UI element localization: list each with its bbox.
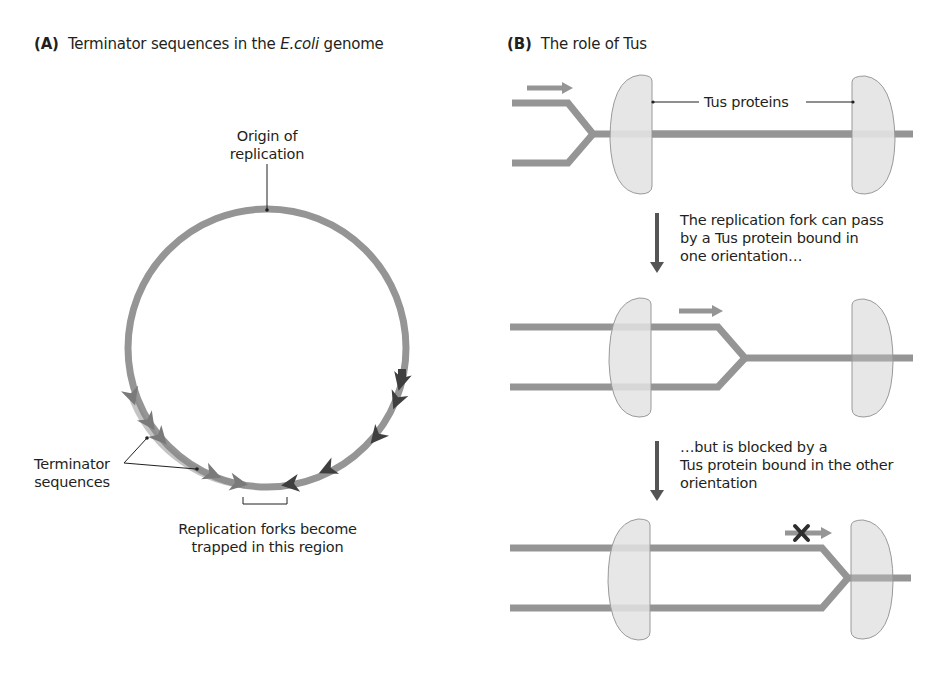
step2-down-arrow — [650, 441, 664, 501]
row1-direction-arrow — [527, 82, 573, 94]
step1-line2: by a Tus protein bound in — [680, 229, 884, 247]
step1-line1: The replication fork can pass — [680, 211, 884, 229]
step2-line3: orientation — [680, 474, 893, 492]
diagram-canvas — [0, 0, 948, 673]
trap-region-bracket — [243, 497, 287, 504]
trap-region-label: Replication forks become trapped in this… — [160, 520, 375, 556]
row2-direction-arrow — [679, 305, 723, 317]
tus-proteins-label: Tus proteins — [704, 93, 789, 111]
circular-genome — [128, 209, 406, 487]
origin-pointer — [265, 164, 269, 212]
step2-caption: …but is blocked by a Tus protein bound i… — [680, 438, 893, 492]
terminator-arrows-counterclockwise — [280, 369, 412, 494]
trap-label-line1: Replication forks become — [160, 520, 375, 538]
row1-tus-right — [852, 76, 895, 194]
origin-label: Origin of replication — [210, 127, 324, 163]
row2-tus-left — [609, 298, 651, 417]
terminator-label-line1: Terminator — [24, 455, 120, 473]
step2-line1: …but is blocked by a — [680, 438, 893, 456]
terminator-label: Terminator sequences — [24, 455, 120, 491]
row3-blocked-arrow — [785, 527, 832, 539]
step1-down-arrow — [650, 213, 664, 273]
tus-label-text: Tus proteins — [704, 94, 789, 110]
row1-tus-left — [610, 75, 652, 194]
step1-caption: The replication fork can pass by a Tus p… — [680, 211, 884, 265]
origin-label-line2: replication — [210, 145, 324, 163]
origin-label-line1: Origin of — [210, 127, 324, 145]
row3-tus-left — [608, 519, 650, 640]
terminator-label-line2: sequences — [24, 473, 120, 491]
trap-label-line2: trapped in this region — [160, 538, 375, 556]
step1-line3: one orientation… — [680, 247, 884, 265]
step2-line2: Tus protein bound in the other — [680, 456, 893, 474]
